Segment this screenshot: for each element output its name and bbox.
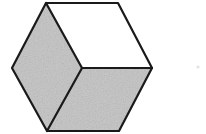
figure-canvas: Hexagonal outline of a cube drawn in iso…	[0, 0, 206, 134]
cube-figure: Hexagonal outline of a cube drawn in iso…	[0, 0, 206, 134]
scan-speck	[196, 65, 199, 68]
